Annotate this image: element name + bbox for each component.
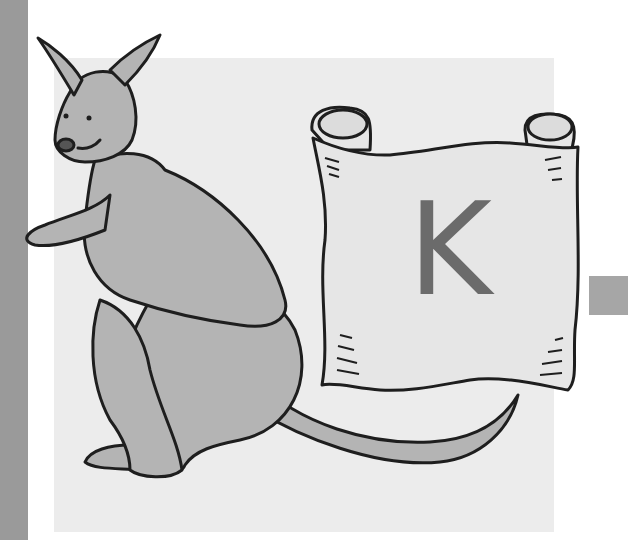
illustration-art [0, 0, 644, 540]
scroll-letter: K [405, 190, 495, 310]
